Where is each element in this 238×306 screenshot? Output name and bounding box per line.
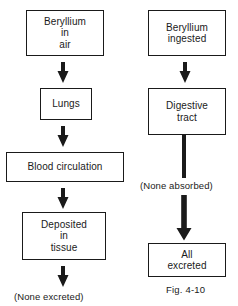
- node-beryllium-in-air: Beryllium in air: [26, 10, 104, 56]
- arrow-air-to-lungs: [57, 62, 69, 84]
- node-beryllium-ingested: Beryllium ingested: [148, 10, 226, 56]
- arrow-deposited-to-none-excreted: [57, 266, 69, 288]
- arrow-lungs-to-blood-circulation: [57, 126, 69, 148]
- arrow-blood-circulation-to-deposited: [57, 188, 69, 210]
- label-none-excreted: (None excreted): [14, 291, 84, 302]
- figure-canvas: Beryllium in air Lungs Blood circulation…: [0, 0, 238, 306]
- node-blood-circulation: Blood circulation: [6, 152, 124, 182]
- label-none-absorbed: (None absorbed): [140, 180, 213, 191]
- connector-digestive-tract-stem: [182, 135, 186, 178]
- figure-number: Fig. 4-10: [166, 284, 205, 295]
- node-deposited-in-tissue: Deposited in tissue: [22, 212, 106, 260]
- node-digestive-tract: Digestive tract: [148, 88, 226, 135]
- arrow-ingested-to-digestive-tract: [179, 62, 191, 84]
- node-lungs: Lungs: [40, 88, 92, 120]
- arrow-digestive-tract-to-all-excreted: [176, 195, 192, 241]
- node-all-excreted: All excreted: [148, 243, 226, 277]
